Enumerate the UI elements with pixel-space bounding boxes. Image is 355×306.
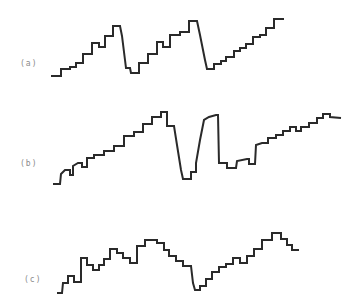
staircase-trace-c <box>58 233 298 293</box>
panel-label-a: (a) <box>20 59 37 68</box>
panel-c: (c) <box>24 233 298 293</box>
panel-label-b: (b) <box>20 159 37 168</box>
staircase-trace-a <box>52 19 283 76</box>
staircase-trace-b <box>54 112 340 184</box>
panel-a: (a) <box>20 19 283 76</box>
panel-label-c: (c) <box>24 275 41 284</box>
waveform-figure: (a) (b) (c) <box>0 0 355 306</box>
panel-b: (b) <box>20 112 340 184</box>
